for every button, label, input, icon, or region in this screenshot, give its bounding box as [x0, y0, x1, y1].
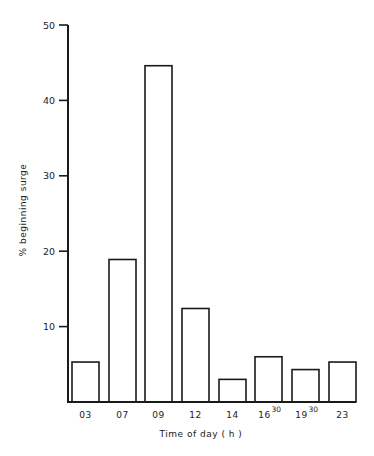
x-tick-label-superscript: 30 — [309, 405, 319, 414]
y-tick-label: 20 — [43, 246, 55, 257]
bar-12 — [182, 309, 209, 402]
x-tick-label: 12 — [189, 410, 201, 420]
y-tick-label: 50 — [43, 20, 55, 31]
x-tick-label: 23 — [336, 410, 348, 420]
x-tick-label: 07 — [116, 410, 128, 420]
bars — [72, 66, 356, 402]
x-axis-label: Time of day ( h ) — [159, 429, 243, 439]
bar-16:30 — [255, 357, 282, 402]
x-tick-label: 14 — [226, 410, 238, 420]
bar-19:30 — [292, 370, 319, 402]
y-tick-label: 40 — [43, 95, 55, 106]
x-tick-label: 03 — [79, 410, 91, 420]
bar-14 — [219, 379, 246, 402]
y-tick-label: 10 — [43, 321, 55, 332]
x-tick-label-superscript: 30 — [272, 405, 282, 414]
bar-09 — [145, 66, 172, 402]
x-tick-label: 09 — [152, 410, 164, 420]
x-tick-label: 16 — [258, 410, 270, 420]
x-tick-label: 19 — [295, 410, 307, 420]
bar-03 — [72, 362, 99, 402]
bar-23 — [329, 362, 356, 402]
y-axis-label: % beginning surge — [18, 164, 28, 257]
bar-07 — [109, 259, 136, 402]
bar-chart: 1020304050 03070912141630193023 Time of … — [0, 0, 374, 456]
y-tick-label: 30 — [43, 170, 55, 181]
x-tick-labels: 03070912141630193023 — [79, 405, 348, 420]
y-ticks: 1020304050 — [43, 20, 68, 333]
